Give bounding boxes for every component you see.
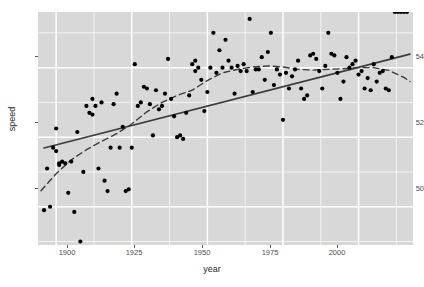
- y-tick-label-50: 50: [390, 185, 424, 193]
- plot-panel: [38, 12, 413, 245]
- x-tick-label-1950: 1950: [182, 249, 222, 257]
- plot-canvas: [38, 12, 413, 245]
- x-tick-label-1900: 1900: [47, 249, 87, 257]
- y-tickmark-50: [35, 188, 38, 189]
- y-tickmark-52: [35, 122, 38, 123]
- x-axis-title: year: [0, 264, 424, 274]
- y-tick-label-52: 52: [390, 119, 424, 127]
- x-tick-label-1975: 1975: [250, 249, 290, 257]
- y-axis-title: speed: [7, 89, 17, 149]
- y-tick-label-54: 54: [390, 53, 424, 61]
- y-tickmark-54: [35, 56, 38, 57]
- x-tick-label-2000: 2000: [317, 249, 357, 257]
- x-tick-label-1925: 1925: [114, 249, 154, 257]
- scatter-plot-figure: 54 52 50 1900 1925 1950 1975 2000 year s…: [0, 0, 424, 287]
